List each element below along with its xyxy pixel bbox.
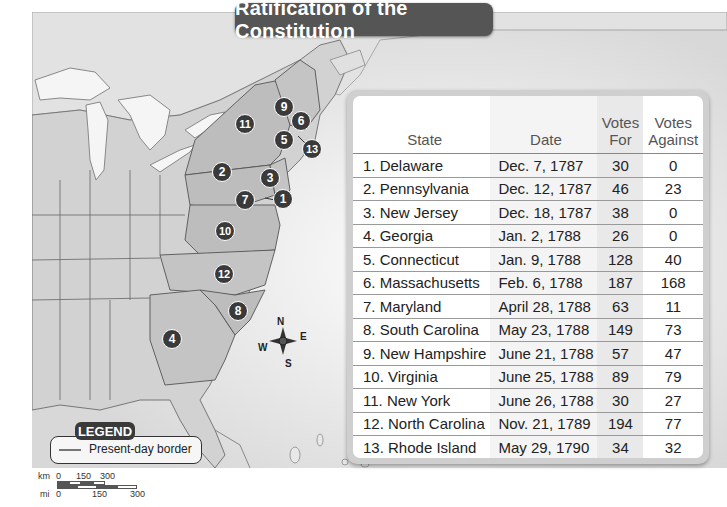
- table-row: 11. New YorkJune 26, 17883027: [353, 389, 703, 413]
- table-row: 3. New JerseyDec. 18, 1787380: [353, 201, 703, 225]
- cell-votes-against: 23: [643, 177, 703, 201]
- cell-votes-for: 30: [597, 389, 643, 413]
- table-row: 6. MassachusettsFeb. 6, 1788187168: [353, 271, 703, 295]
- cell-state: 12. North Carolina: [353, 412, 490, 436]
- cell-votes-for: 149: [597, 318, 643, 342]
- scale-mi-150: 150: [92, 489, 107, 499]
- state-marker-6: 6: [291, 111, 311, 131]
- table-header-row: State Date Votes For Votes Against: [353, 96, 703, 154]
- header-state: State: [353, 96, 490, 154]
- ratification-table: State Date Votes For Votes Against 1. De…: [353, 96, 703, 458]
- cell-votes-for: 63: [597, 295, 643, 319]
- cell-state: 5. Connecticut: [353, 248, 490, 272]
- table-row: 9. New HampshireJune 21, 17885747: [353, 342, 703, 366]
- cell-date: Dec. 12, 1787: [490, 177, 597, 201]
- table-row: 10. VirginiaJune 25, 17888979: [353, 365, 703, 389]
- cell-votes-against: 40: [643, 248, 703, 272]
- scale-mi-300: 300: [130, 489, 145, 499]
- header-date: Date: [490, 96, 597, 154]
- cell-date: June 25, 1788: [490, 365, 597, 389]
- compass-south: S: [285, 358, 292, 369]
- table-row: 8. South CarolinaMay 23, 178814973: [353, 318, 703, 342]
- cell-votes-against: 0: [643, 201, 703, 225]
- header-votes-for: Votes For: [597, 96, 643, 154]
- table-row: 5. ConnecticutJan. 9, 178812840: [353, 248, 703, 272]
- table-row: 13. Rhode IslandMay 29, 17903432: [353, 436, 703, 459]
- cell-state: 11. New York: [353, 389, 490, 413]
- cell-votes-for: 26: [597, 224, 643, 248]
- cell-state: 13. Rhode Island: [353, 436, 490, 459]
- state-marker-10: 10: [215, 221, 235, 241]
- state-marker-9: 9: [274, 97, 294, 117]
- cell-date: Feb. 6, 1788: [490, 271, 597, 295]
- cell-votes-for: 194: [597, 412, 643, 436]
- cell-state: 7. Maryland: [353, 295, 490, 319]
- cell-state: 10. Virginia: [353, 365, 490, 389]
- table-row: 12. North CarolinaNov. 21, 178919477: [353, 412, 703, 436]
- cell-votes-for: 57: [597, 342, 643, 366]
- map-title: Ratification of the Constitution: [235, 3, 493, 36]
- cell-votes-against: 11: [643, 295, 703, 319]
- cell-date: June 21, 1788: [490, 342, 597, 366]
- compass-north: N: [277, 316, 284, 327]
- cell-votes-against: 79: [643, 365, 703, 389]
- cell-date: Jan. 2, 1788: [490, 224, 597, 248]
- table-row: 1. DelawareDec. 7, 1787300: [353, 154, 703, 178]
- state-marker-4: 4: [162, 329, 182, 349]
- cell-votes-against: 73: [643, 318, 703, 342]
- cell-votes-against: 0: [643, 224, 703, 248]
- state-marker-8: 8: [228, 301, 248, 321]
- cell-votes-for: 187: [597, 271, 643, 295]
- compass-east: E: [300, 331, 307, 342]
- ratification-table-panel: State Date Votes For Votes Against 1. De…: [347, 90, 709, 464]
- legend-title: LEGEND: [75, 422, 135, 440]
- cell-votes-for: 30: [597, 154, 643, 178]
- cell-date: May 29, 1790: [490, 436, 597, 459]
- state-marker-5: 5: [274, 130, 294, 150]
- cell-state: 2. Pennsylvania: [353, 177, 490, 201]
- table-row: 7. MarylandApril 28, 17886311: [353, 295, 703, 319]
- scale-km-150: 150: [76, 471, 91, 481]
- table-row: 2. PennsylvaniaDec. 12, 17874623: [353, 177, 703, 201]
- cell-votes-against: 32: [643, 436, 703, 459]
- cell-votes-against: 27: [643, 389, 703, 413]
- header-votes-against: Votes Against: [643, 96, 703, 154]
- cell-votes-against: 0: [643, 154, 703, 178]
- state-marker-3: 3: [260, 168, 280, 188]
- state-marker-1: 1: [273, 189, 293, 209]
- cell-state: 1. Delaware: [353, 154, 490, 178]
- scale-mi-label: mi: [40, 489, 50, 499]
- cell-date: Nov. 21, 1789: [490, 412, 597, 436]
- scale-km-300: 300: [100, 471, 115, 481]
- cell-date: June 26, 1788: [490, 389, 597, 413]
- cell-votes-against: 168: [643, 271, 703, 295]
- cell-votes-for: 128: [597, 248, 643, 272]
- cell-date: April 28, 1788: [490, 295, 597, 319]
- cell-date: Jan. 9, 1788: [490, 248, 597, 272]
- scale-km-0: 0: [56, 471, 61, 481]
- compass-west: W: [258, 342, 267, 353]
- scale-mi-0: 0: [56, 489, 61, 499]
- cell-state: 3. New Jersey: [353, 201, 490, 225]
- cell-votes-for: 34: [597, 436, 643, 459]
- cell-date: Dec. 7, 1787: [490, 154, 597, 178]
- cell-votes-for: 46: [597, 177, 643, 201]
- legend-item-label: Present-day border: [89, 442, 192, 456]
- cell-votes-for: 38: [597, 201, 643, 225]
- cell-state: 9. New Hampshire: [353, 342, 490, 366]
- cell-votes-for: 89: [597, 365, 643, 389]
- border-line-icon: [59, 449, 81, 451]
- cell-date: Dec. 18, 1787: [490, 201, 597, 225]
- cell-votes-against: 77: [643, 412, 703, 436]
- cell-date: May 23, 1788: [490, 318, 597, 342]
- legend-box: Present-day border: [50, 436, 202, 464]
- cell-votes-against: 47: [643, 342, 703, 366]
- state-marker-12: 12: [214, 264, 234, 284]
- scale-km-label: km: [38, 471, 50, 481]
- state-marker-7: 7: [235, 190, 255, 210]
- state-marker-2: 2: [212, 162, 232, 182]
- state-marker-11: 11: [235, 114, 255, 134]
- cell-state: 6. Massachusetts: [353, 271, 490, 295]
- cell-state: 4. Georgia: [353, 224, 490, 248]
- table-row: 4. GeorgiaJan. 2, 1788260: [353, 224, 703, 248]
